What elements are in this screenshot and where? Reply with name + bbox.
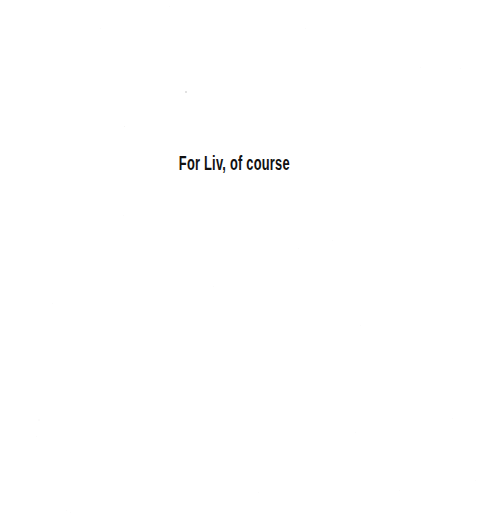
scan-speckle [258,492,259,493]
scan-speckle [355,432,356,433]
scan-speckle [298,248,299,249]
scan-speckle [124,126,125,127]
scan-speckle [169,6,170,7]
scan-speckle [36,436,37,437]
scan-speckle [52,303,53,304]
scan-speckle [305,28,306,29]
scan-speckle [475,480,476,481]
scan-speckle [66,510,67,511]
scan-speckle [123,215,124,216]
scan-speckle [213,286,214,287]
scan-noise-layer [0,0,486,521]
scan-speckle [420,67,421,68]
scan-speckle [332,240,333,241]
scan-speckle [452,418,453,419]
scan-speckle [100,28,101,29]
scan-speckle [38,419,40,421]
dedication-block: For Liv, of course [0,152,486,174]
scan-speckle [70,512,71,513]
scan-speckle [185,91,187,93]
scan-speckle [360,325,361,326]
scan-speckle [399,490,400,491]
scan-speckle [460,68,461,69]
dedication-text: For Liv, of course [179,152,290,174]
dedication-page: For Liv, of course [0,0,486,521]
